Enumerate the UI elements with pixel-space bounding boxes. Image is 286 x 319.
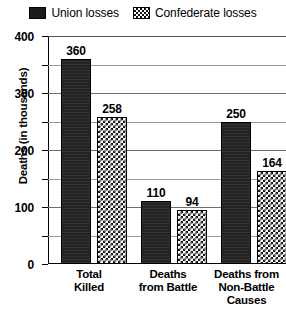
bar-union-deaths-from-non-battle-causes[interactable]: 250	[221, 122, 251, 265]
y-tick-label-200: 200	[15, 144, 34, 158]
y-tick-label-400: 400	[15, 30, 34, 44]
y-tick-label-100: 100	[15, 201, 34, 215]
category-label-deaths-from-battle: Deaths from Battle	[126, 268, 210, 294]
legend-entry-union: Union losses	[29, 7, 119, 19]
category-label-deaths-from-non-battle-causes: Deaths from Non-Battle Causes	[207, 268, 286, 307]
bar-chart-figure: Union losses Confederate losses Deaths (…	[0, 0, 286, 319]
bar-value-confederate-total-killed: 258	[102, 102, 121, 116]
bar-confederate-total-killed[interactable]: 258	[97, 117, 127, 264]
y-tick-300: 300	[42, 93, 48, 94]
y-tick-250	[42, 122, 48, 123]
bar-value-union-deaths-from-battle: 110	[147, 186, 166, 200]
category-label-line: Deaths	[126, 268, 210, 281]
y-axis-title: Deaths (in thousands)	[17, 41, 29, 211]
plot-area: 400 300 200 100 0 360 258	[48, 36, 286, 264]
bar-group-total-killed: 360 258	[58, 36, 130, 264]
bar-union-deaths-from-battle[interactable]: 110	[141, 201, 171, 264]
category-label-line: from Battle	[126, 281, 210, 294]
category-label-line: Total	[51, 268, 127, 281]
bar-value-union-total-killed: 360	[66, 44, 85, 58]
legend-swatch-union	[29, 7, 46, 19]
bar-value-union-deaths-from-non-battle-causes: 250	[226, 107, 245, 121]
y-tick-50	[42, 236, 48, 237]
legend-swatch-confederate	[133, 7, 150, 19]
category-label-line: Non-Battle	[207, 281, 286, 294]
y-tick-400: 400	[42, 36, 48, 37]
legend-entry-confederate: Confederate losses	[133, 7, 257, 19]
y-tick-100: 100	[42, 207, 48, 208]
bar-confederate-deaths-from-battle[interactable]: 94	[177, 210, 207, 264]
bar-confederate-deaths-from-non-battle-causes[interactable]: 164	[257, 171, 286, 264]
bar-union-total-killed[interactable]: 360	[61, 59, 91, 264]
y-tick-150	[42, 179, 48, 180]
category-label-total-killed: Total Killed	[51, 268, 127, 294]
bar-group-deaths-from-battle: 110 94	[138, 36, 210, 264]
y-tick-label-0: 0	[28, 258, 34, 272]
y-tick-350	[42, 65, 48, 66]
bar-value-confederate-deaths-from-battle: 94	[186, 195, 199, 209]
category-label-line: Causes	[207, 294, 286, 307]
y-tick-label-300: 300	[15, 87, 34, 101]
legend-label-confederate: Confederate losses	[155, 7, 257, 19]
category-label-line: Deaths from	[207, 268, 286, 281]
legend-label-union: Union losses	[51, 7, 119, 19]
y-tick-200: 200	[42, 150, 48, 151]
y-tick-0: 0	[42, 264, 48, 265]
bar-group-deaths-from-non-battle-causes: 250 164	[218, 36, 286, 264]
chart-legend: Union losses Confederate losses	[0, 2, 286, 24]
bar-value-confederate-deaths-from-non-battle-causes: 164	[262, 156, 281, 170]
category-label-line: Killed	[51, 281, 127, 294]
